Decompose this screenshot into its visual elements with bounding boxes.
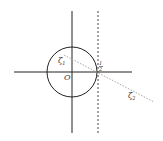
origin-label: O [64, 73, 71, 82]
zeta1-label: ζ1 [58, 56, 66, 66]
diagram-canvas: ζ1 ζ2 O 1 2 [0, 0, 163, 141]
half-denominator: 2 [98, 66, 102, 72]
zeta2-label: ζ2 [128, 91, 136, 101]
dotted-line-zeta1-zeta2 [64, 55, 154, 102]
